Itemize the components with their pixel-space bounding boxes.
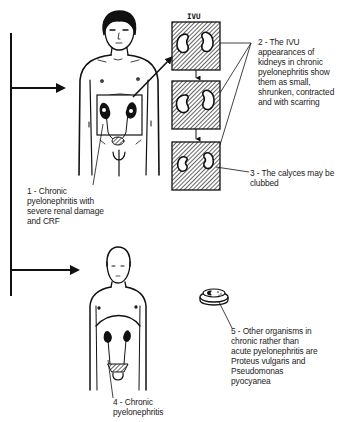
label-line: Pseudomonas xyxy=(231,366,318,376)
label-line: and with scarring xyxy=(258,97,334,107)
label-line: 2 - The IVU xyxy=(258,37,334,47)
label-line: pyelonephritis with xyxy=(27,196,104,206)
label-line: 1 - Chronic xyxy=(27,186,104,196)
label-line: severe renal damage xyxy=(27,206,104,216)
label-line: chronic rather than xyxy=(231,336,318,346)
ivu-panel-3 xyxy=(172,142,220,190)
label-line: 5 - Other organisms in xyxy=(231,326,318,336)
label-4-chronic-pyelonephritis: 4 - Chronic pyelonephritis xyxy=(113,397,163,417)
label-line: pyelonephritis show xyxy=(258,67,334,77)
ivu-panels xyxy=(172,22,220,190)
label-line: kidneys in chronic xyxy=(258,57,334,67)
label-line: and CRF xyxy=(27,216,104,226)
label-line: pyelonephritis xyxy=(113,407,163,417)
label-line: shrunken, contracted xyxy=(258,87,334,97)
timeline xyxy=(11,33,80,296)
label-line: 4 - Chronic xyxy=(113,397,163,407)
label-line: pyocyanea xyxy=(231,376,318,386)
ivu-panel-2 xyxy=(172,81,220,129)
label-2-ivu-appearances: 2 - The IVU appearances of kidneys in ch… xyxy=(258,37,334,107)
ivu-title: IVU xyxy=(187,12,201,21)
upper-male-figure xyxy=(79,11,159,176)
label-5-other-organisms: 5 - Other organisms in chronic rather th… xyxy=(231,326,318,386)
arrow-right-icon xyxy=(70,265,80,275)
label-line: Proteus vulgaris and xyxy=(231,356,318,366)
label-line: 3 - The calyces may be xyxy=(250,168,334,178)
label-line: acute pyelonephritis are xyxy=(231,346,318,356)
label-line: them as small, xyxy=(258,77,334,87)
label-1-chronic-pyelonephritis-crf: 1 - Chronic pyelonephritis with severe r… xyxy=(27,186,104,226)
petri-dish-icon xyxy=(200,289,228,305)
arrow-right-icon xyxy=(56,83,66,93)
label-line: clubbed xyxy=(250,178,334,188)
label-line: appearances of xyxy=(258,47,334,57)
lower-figure xyxy=(90,247,146,390)
label-3-calyces-clubbed: 3 - The calyces may be clubbed xyxy=(250,168,334,188)
arrow-to-ivu xyxy=(133,57,172,97)
ivu-panel-1 xyxy=(172,22,220,70)
